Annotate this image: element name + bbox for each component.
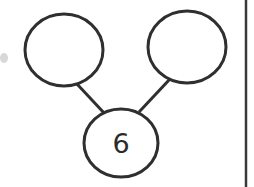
smudge-mark	[0, 53, 8, 63]
whole-value: 6	[112, 128, 129, 159]
connector-right	[139, 79, 170, 112]
part-circle-left[interactable]	[25, 14, 103, 86]
part-circle-right[interactable]	[148, 11, 226, 83]
number-bond-diagram: 6	[0, 0, 254, 187]
connector-left	[77, 84, 105, 114]
